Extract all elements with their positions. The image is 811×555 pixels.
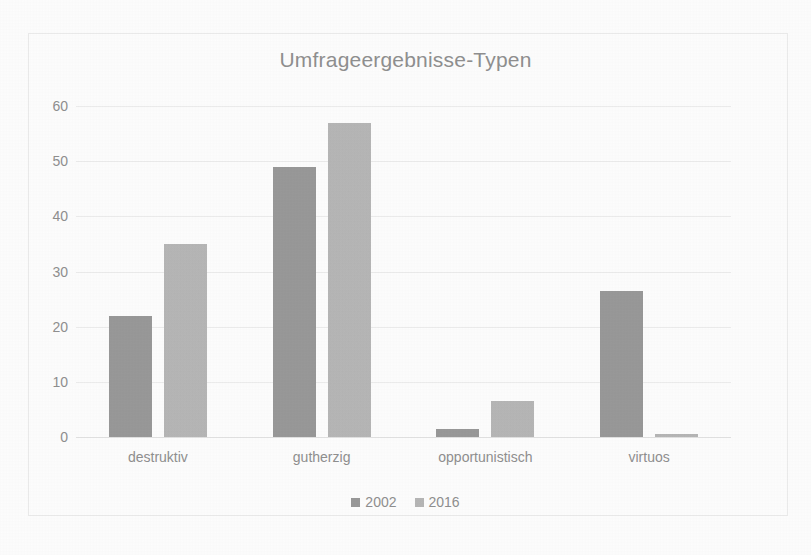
- bar-virtuos-2016[interactable]: [655, 434, 698, 437]
- x-tick-label-opportunistisch: opportunistisch: [438, 449, 532, 465]
- x-tick-label-virtuos: virtuos: [629, 449, 670, 465]
- chart-canvas: Umfrageergebnisse-Typen 0102030405060 de…: [0, 0, 811, 555]
- y-tick-label: 50: [24, 153, 68, 169]
- y-tick-label: 0: [24, 429, 68, 445]
- y-axis-labels: 0102030405060: [22, 106, 68, 437]
- bar-gutherzig-2002[interactable]: [273, 167, 316, 437]
- bar-virtuos-2002[interactable]: [600, 291, 643, 437]
- bar-group: [240, 106, 404, 437]
- legend-label: 2002: [365, 494, 396, 510]
- y-tick-label: 30: [24, 264, 68, 280]
- gridline-0: [76, 437, 731, 438]
- y-tick-label: 10: [24, 374, 68, 390]
- bar-destruktiv-2016[interactable]: [164, 244, 207, 437]
- bar-gutherzig-2016[interactable]: [328, 123, 371, 437]
- legend-swatch-icon: [351, 498, 360, 507]
- y-tick-label: 20: [24, 319, 68, 335]
- bar-group: [567, 106, 731, 437]
- chart-legend: 20022016: [0, 494, 811, 510]
- y-tick-label: 60: [24, 98, 68, 114]
- bar-opportunistisch-2016[interactable]: [491, 401, 534, 437]
- x-axis-labels: destruktivgutherzigopportunistischvirtuo…: [76, 449, 731, 471]
- legend-swatch-icon: [415, 498, 424, 507]
- x-tick-label-destruktiv: destruktiv: [128, 449, 188, 465]
- bar-opportunistisch-2002[interactable]: [436, 429, 479, 437]
- y-tick-label: 40: [24, 208, 68, 224]
- bar-destruktiv-2002[interactable]: [109, 316, 152, 437]
- bar-group: [76, 106, 240, 437]
- x-tick-label-gutherzig: gutherzig: [293, 449, 351, 465]
- legend-item-2002[interactable]: 2002: [351, 494, 396, 510]
- bars-layer: [76, 106, 731, 437]
- bar-group: [404, 106, 568, 437]
- legend-label: 2016: [429, 494, 460, 510]
- chart-title: Umfrageergebnisse-Typen: [0, 48, 811, 72]
- legend-item-2016[interactable]: 2016: [415, 494, 460, 510]
